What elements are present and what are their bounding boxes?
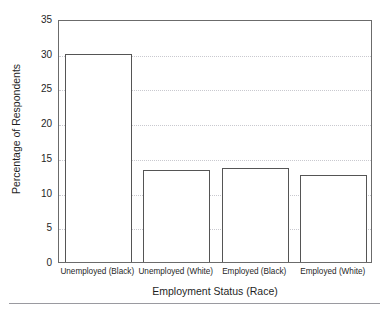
chart-page: 05101520253035 Percentage of Respondents… xyxy=(0,0,389,314)
y-axis-tick-label: 5 xyxy=(8,223,52,233)
plot-frame xyxy=(58,20,372,263)
bar-3 xyxy=(300,175,367,262)
bottom-divider-rule xyxy=(9,303,380,304)
x-axis-tick-label: Unemployed (White) xyxy=(137,266,216,277)
x-axis-title: Employment Status (Race) xyxy=(58,285,372,297)
y-axis-ticks: 05101520253035 xyxy=(0,20,52,263)
x-axis-tick-label: Unemployed (Black) xyxy=(58,266,137,277)
y-axis-tick-label: 0 xyxy=(8,258,52,268)
y-axis-tick-label: 35 xyxy=(8,15,52,25)
x-axis-tick-label: Employed (Black) xyxy=(215,266,294,277)
bar-0 xyxy=(65,54,132,262)
bar-2 xyxy=(222,168,289,262)
y-axis-title: Percentage of Respondents xyxy=(10,49,22,209)
caption-remnant-text xyxy=(6,0,246,5)
x-axis-tick-label: Employed (White) xyxy=(294,266,373,277)
bar-1 xyxy=(143,170,210,262)
bars-layer xyxy=(59,21,371,262)
x-axis-tick-labels: Unemployed (Black)Unemployed (White)Empl… xyxy=(58,266,372,280)
